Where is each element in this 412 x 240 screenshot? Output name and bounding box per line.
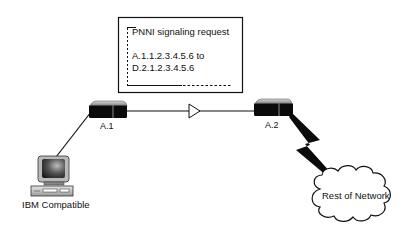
callout-title: PNNI signaling request xyxy=(132,26,229,38)
switch-a1-icon[interactable] xyxy=(89,101,127,118)
cloud-label: Rest of Network xyxy=(322,190,390,201)
lightning-bolt-icon xyxy=(289,113,332,176)
pc-label: IBM Compatible xyxy=(22,199,90,210)
link-a1-pc xyxy=(56,112,91,157)
switch-a2-label: A.2 xyxy=(265,120,279,131)
link-a1-a2 xyxy=(125,104,256,118)
callout-address-line-1: A.1.1.2.3.4.5.6 to xyxy=(132,50,204,62)
desktop-computer-icon[interactable] xyxy=(31,156,73,196)
switch-a1-label: A.1 xyxy=(100,121,114,132)
switch-a2-icon[interactable] xyxy=(254,99,293,116)
callout-address-line-2: D.2.1.2.3.4.5.6 xyxy=(132,62,194,74)
